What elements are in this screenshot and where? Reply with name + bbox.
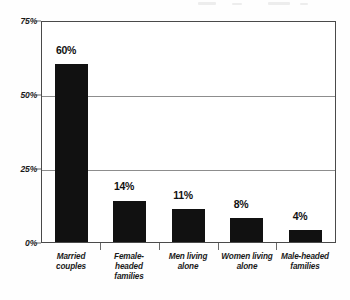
x-tick-mark-1 <box>100 243 101 250</box>
y-axis-tick-label-75: 75% <box>21 16 37 26</box>
chart-screenshot: 75% 50% 25% 0% 60% 14% 11% 8% 4% Married… <box>0 0 350 300</box>
bar-value-women-living-alone: 8% <box>217 198 265 210</box>
bar-women-living-alone <box>230 218 263 242</box>
bar-value-male-headed-families: 4% <box>276 210 324 222</box>
bar-men-living-alone <box>172 209 205 242</box>
x-tick-mark-2 <box>159 243 160 250</box>
x-axis-label-male-headed-families: Male-headed families <box>274 252 336 272</box>
bar-male-headed-families <box>289 230 322 242</box>
x-axis-label-women-living-alone: Women living alone <box>216 252 278 272</box>
y-axis-tick-label-50: 50% <box>21 90 37 100</box>
scan-artifact <box>198 2 216 5</box>
x-tick-mark-3 <box>218 243 219 250</box>
x-axis-label-married-couples: Married couples <box>42 252 100 272</box>
scan-artifact <box>268 2 290 5</box>
scan-artifact <box>300 3 308 5</box>
y-axis-tick-label-0: 0% <box>25 238 37 248</box>
bar-value-men-living-alone: 11% <box>159 189 207 201</box>
x-tick-mark-4 <box>276 243 277 250</box>
scan-artifact <box>232 3 242 5</box>
bar-married-couples <box>55 64 88 242</box>
bar-value-married-couples: 60% <box>42 44 90 56</box>
x-axis-label-men-living-alone: Men living alone <box>159 252 217 272</box>
bar-female-headed-families <box>113 201 146 242</box>
y-axis-tick-label-25: 25% <box>21 164 37 174</box>
bar-value-female-headed-families: 14% <box>100 180 148 192</box>
x-axis-label-female-headed-families: Female- headed families <box>100 252 158 282</box>
